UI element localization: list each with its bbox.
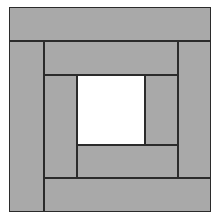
inner-bottom-strip [77, 145, 178, 178]
center-square [77, 75, 145, 145]
inner-left-strip [44, 75, 77, 178]
outer-right-strip [178, 41, 211, 178]
inner-top-strip [44, 41, 178, 75]
outer-top-strip [9, 7, 211, 41]
outer-bottom-strip [44, 178, 211, 212]
inner-right-strip [145, 75, 178, 145]
outer-left-strip [9, 41, 44, 212]
